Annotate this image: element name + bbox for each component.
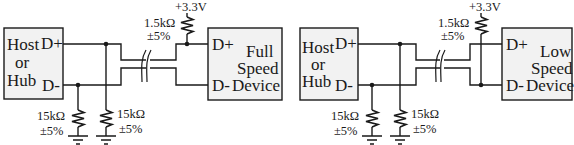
dplus-wire-left	[63, 44, 208, 60]
pullup-value-left: 1.5kΩ	[144, 16, 175, 30]
host-box-right: Host or Hub D+ D-	[300, 28, 358, 100]
supply-label-left: +3.3V	[175, 0, 207, 14]
device-label-line3: Device	[232, 76, 280, 95]
usb-pullup-schematic: Host or Hub D+ D- 15kΩ ±5% 15k	[0, 0, 574, 145]
host-pin-dplus: D+	[41, 34, 63, 53]
ground-icon	[362, 136, 382, 144]
device-pin-dplus: D+	[212, 35, 234, 54]
resistor-pulldown-dminus-left	[72, 110, 84, 127]
resistor-pulldown-dplus-right	[394, 110, 406, 127]
resistor-pulldown-dplus-left	[100, 110, 112, 127]
supply-label-right: +3.3V	[469, 0, 501, 14]
pulldown-dminus-value-left: 15kΩ	[37, 109, 65, 123]
host-label-line2: or	[15, 53, 30, 72]
host-pin-dplus: D+	[335, 34, 357, 53]
pulldown-dminus-tol-right: ±5%	[334, 124, 358, 138]
device-pin-dminus: D-	[212, 76, 230, 95]
device-pin-dplus: D+	[506, 35, 528, 54]
pullup-value-right: 1.5kΩ	[438, 16, 469, 30]
device-box-low-speed: D+ D- Low Speed Device	[502, 28, 574, 100]
resistor-pullup-right	[475, 17, 487, 34]
ground-icon	[390, 136, 410, 144]
low-speed-circuit: Host or Hub D+ D- 15kΩ ±5% 15k	[300, 0, 574, 144]
resistor-pullup-left	[181, 17, 193, 34]
full-speed-circuit: Host or Hub D+ D- 15kΩ ±5% 15k	[4, 0, 282, 144]
pulldown-dplus-tol-right: ±5%	[413, 122, 437, 136]
resistor-pulldown-dminus-right	[366, 110, 378, 127]
pullup-tol-right: ±5%	[441, 29, 465, 43]
cable-break-right	[436, 50, 445, 82]
device-label-line3: Device	[526, 76, 574, 95]
device-box-full-speed: D+ D- Full Speed Device	[208, 28, 282, 100]
host-label-line3: Hub	[7, 71, 36, 90]
pulldown-dplus-tol-left: ±5%	[119, 122, 143, 136]
host-label-line1: Host	[7, 35, 39, 54]
pulldown-dplus-value-right: 15kΩ	[411, 107, 439, 121]
host-pin-dminus: D-	[42, 76, 60, 95]
pulldown-dplus-value-left: 15kΩ	[117, 107, 145, 121]
ground-icon	[68, 136, 88, 144]
host-label-line3: Hub	[302, 72, 331, 91]
dminus-wire-left	[63, 68, 208, 85]
host-box-left: Host or Hub D+ D-	[4, 28, 63, 99]
ground-icon	[96, 136, 116, 144]
host-pin-dminus: D-	[335, 76, 353, 95]
device-pin-dminus: D-	[506, 76, 524, 95]
cable-break-left	[142, 50, 151, 82]
pulldown-dminus-value-right: 15kΩ	[331, 109, 359, 123]
pullup-tol-left: ±5%	[147, 29, 171, 43]
pulldown-dminus-tol-left: ±5%	[40, 124, 64, 138]
